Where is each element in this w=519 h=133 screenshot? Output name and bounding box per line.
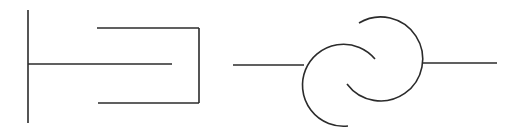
capacitor-symbol	[28, 10, 199, 123]
interlocking-arcs-symbol	[233, 17, 497, 126]
left-arc	[303, 44, 375, 126]
right-arc	[347, 17, 423, 101]
diagram-canvas	[0, 0, 519, 133]
